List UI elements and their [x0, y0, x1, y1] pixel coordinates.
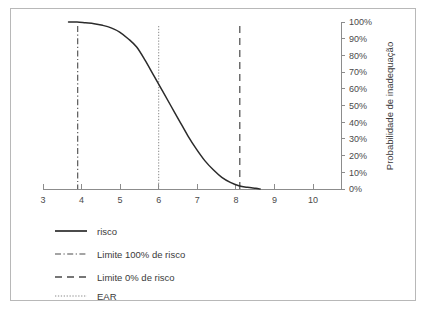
y-axis-tick-labels: 0% 10% 20% 30% 40% 50% 60% 70% 80% 90% 1… [349, 17, 372, 194]
y-tick-label: 80% [349, 51, 367, 61]
x-axis-ticks [43, 184, 341, 189]
legend-label-ear: EAR [97, 291, 117, 301]
y-tick-label: 90% [349, 34, 367, 44]
y-tick-label: 100% [349, 17, 372, 27]
y-tick-label: 10% [349, 168, 367, 178]
y-axis-ticks [341, 22, 345, 189]
legend-label-limite-100: Limite 100% de risco [97, 249, 185, 260]
x-tick-label: 3 [40, 195, 45, 205]
y-tick-label: 50% [349, 101, 367, 111]
risk-probability-chart: 3 4 5 6 7 8 9 10 0% 10% 20% [11, 9, 415, 300]
x-tick-label: 10 [308, 195, 318, 205]
y-tick-label: 30% [349, 134, 367, 144]
y-tick-label: 40% [349, 118, 367, 128]
series-line-risco [69, 22, 261, 189]
y-tick-label: 20% [349, 151, 367, 161]
x-axis-tick-labels: 3 4 5 6 7 8 9 10 [40, 195, 318, 205]
x-tick-label: 6 [156, 195, 161, 205]
x-tick-label: 4 [79, 195, 84, 205]
chart-figure: 3 4 5 6 7 8 9 10 0% 10% 20% [10, 8, 416, 301]
y-tick-label: 70% [349, 67, 367, 77]
chart-legend: risco Limite 100% de risco Limite 0% de … [55, 226, 185, 301]
legend-label-limite-0: Limite 0% de risco [97, 272, 175, 283]
y-axis-title: Probabilidade de inadequação [384, 42, 395, 170]
y-tick-label: 0% [349, 184, 362, 194]
x-tick-label: 7 [195, 195, 200, 205]
x-tick-label: 8 [233, 195, 238, 205]
x-tick-label: 5 [118, 195, 123, 205]
y-tick-label: 60% [349, 84, 367, 94]
x-tick-label: 9 [272, 195, 277, 205]
legend-label-risco: risco [97, 226, 117, 237]
